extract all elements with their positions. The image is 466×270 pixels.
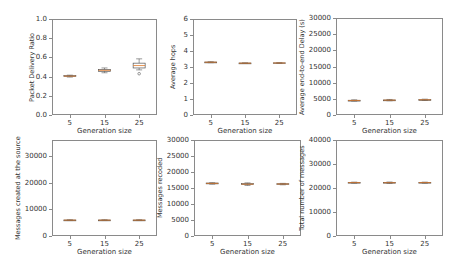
box-15 (384, 182, 396, 183)
box-5 (348, 182, 360, 183)
boxplot-layer (0, 0, 466, 270)
box-25 (419, 182, 431, 183)
